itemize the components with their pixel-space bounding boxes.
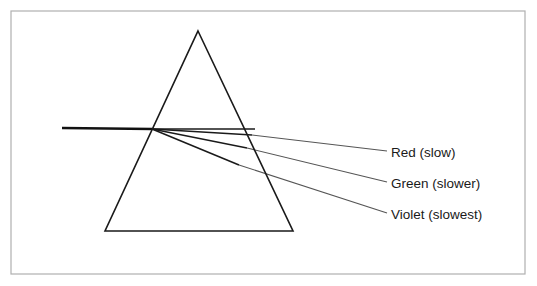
prism-diagram-canvas: Red (slow) Green (slower) Violet (slowes…: [0, 0, 537, 286]
label-green: Green (slower): [391, 176, 480, 191]
label-red: Red (slow): [391, 145, 456, 160]
incident-white-light-ray: [62, 128, 152, 129]
prism-dispersion-figure: Red (slow) Green (slower) Violet (slowes…: [0, 0, 537, 286]
figure-background: [0, 0, 537, 286]
label-violet: Violet (slowest): [391, 207, 482, 222]
